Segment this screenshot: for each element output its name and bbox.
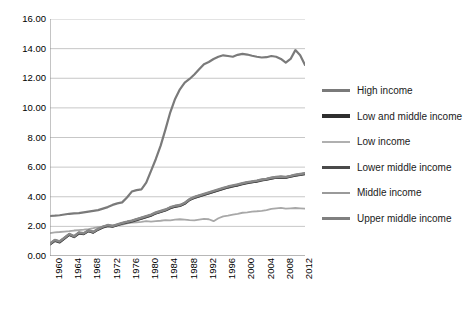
x-tick-label: 1972 [112,258,122,279]
x-tick-label: 1964 [73,258,83,279]
legend-swatch [322,217,350,220]
legend-item[interactable]: Middle income [322,180,468,206]
series-line [50,174,305,244]
legend-swatch [322,192,350,195]
series-line [50,173,305,244]
x-tick-label: 1992 [208,258,218,279]
legend-swatch [322,166,350,170]
legend-label: Low and middle income [357,111,462,122]
legend-item[interactable]: High income [322,78,468,104]
legend-label: Lower middle income [357,162,452,173]
legend-item[interactable]: Lower middle income [322,155,468,181]
y-tick-label: 6.00 [0,162,46,172]
legend-label: Low income [357,136,410,147]
plot-area [50,19,305,256]
legend-item[interactable]: Upper middle income [322,206,468,232]
series-line [50,50,305,216]
y-tick-label: 0.00 [0,251,46,261]
legend-item[interactable]: Low and middle income [322,104,468,130]
gridlines [50,19,305,256]
y-tick-label: 12.00 [0,73,46,83]
x-tick-label: 2008 [285,258,295,279]
y-axis-labels: 0.002.004.006.008.0010.0012.0014.0016.00 [0,0,46,310]
legend-label: High income [357,85,413,96]
chart-container: 0.002.004.006.008.0010.0012.0014.0016.00… [0,0,468,310]
x-tick-label: 1984 [169,258,179,279]
chart-legend: High incomeLow and middle incomeLow inco… [322,78,468,231]
y-tick-label: 14.00 [0,44,46,54]
x-tick-label: 1976 [131,258,141,279]
legend-label: Middle income [357,187,421,198]
x-axis-labels: 1960196419681972197619801984198819921996… [50,258,312,308]
y-tick-label: 16.00 [0,14,46,24]
y-tick-label: 2.00 [0,221,46,231]
x-tick-label: 1988 [189,258,199,279]
x-tick-label: 2000 [246,258,256,279]
x-tick-label: 1968 [92,258,102,279]
legend-swatch [322,141,350,144]
x-tick-label: 2012 [304,258,314,279]
x-tick-label: 2004 [266,258,276,279]
y-tick-label: 8.00 [0,133,46,143]
legend-item[interactable]: Low income [322,129,468,155]
x-tick-label: 1996 [227,258,237,279]
legend-label: Upper middle income [357,213,452,224]
legend-swatch [322,114,350,118]
plot-svg [50,19,305,256]
x-tick-label: 1980 [150,258,160,279]
series-lines [50,50,305,244]
series-line [50,173,305,243]
y-tick-label: 4.00 [0,192,46,202]
x-tick-label: 1960 [54,258,64,279]
y-tick-label: 10.00 [0,103,46,113]
legend-swatch [322,89,350,92]
